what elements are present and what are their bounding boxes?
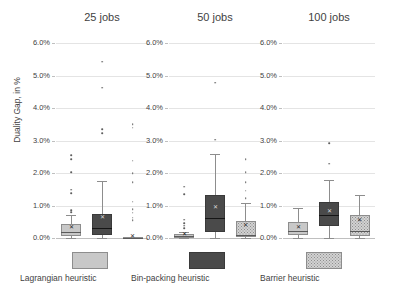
outlier-point — [184, 193, 186, 195]
y-axis-tick-label: 4.0% — [243, 103, 277, 112]
y-axis-tick-label: 5.0% — [16, 71, 50, 80]
outlier-point — [245, 181, 247, 183]
y-axis-tick-mark — [279, 43, 282, 44]
outlier-point — [101, 133, 103, 135]
whisker-cap-lower — [179, 238, 189, 239]
outlier-point — [245, 159, 247, 161]
outlier-point — [71, 159, 73, 161]
y-axis-tick-label: 2.0% — [243, 168, 277, 177]
y-axis-tick-mark — [279, 76, 282, 77]
mean-marker: ✕ — [327, 209, 332, 215]
whisker-cap-lower — [355, 238, 365, 239]
outlier-point — [184, 227, 186, 229]
y-axis-tick-mark — [165, 141, 168, 142]
y-axis-tick-label: 0.0% — [129, 233, 163, 242]
outlier-point — [184, 222, 186, 224]
y-axis-tick-mark — [165, 43, 168, 44]
whisker-cap-lower — [293, 238, 303, 239]
mean-marker: ✕ — [100, 215, 105, 221]
y-axis-tick-label: 6.0% — [16, 38, 50, 47]
outlier-point — [132, 219, 134, 221]
outlier-point — [101, 87, 103, 89]
outlier-point — [184, 186, 186, 188]
duality-gap-boxplot-figure: Duality Gap, in % 25 jobs0.0%1.0%2.0%3.0… — [0, 0, 408, 307]
gridline — [283, 76, 375, 77]
outlier-point — [245, 190, 247, 192]
y-axis-tick-mark — [279, 141, 282, 142]
y-axis-tick-label: 5.0% — [243, 71, 277, 80]
outlier-point — [245, 198, 247, 200]
outlier-point — [71, 154, 73, 156]
y-axis-tick-label: 4.0% — [129, 103, 163, 112]
mean-marker: ✕ — [213, 205, 218, 211]
y-axis-tick-mark — [52, 238, 55, 239]
panel-100-jobs: 100 jobs0.0%1.0%2.0%3.0%4.0%5.0%6.0%✕✕✕ — [283, 43, 375, 238]
panel-title: 25 jobs — [42, 11, 162, 23]
outlier-point — [71, 192, 73, 194]
mean-marker: ✕ — [296, 225, 301, 231]
y-axis-tick-mark — [165, 238, 168, 239]
y-axis-tick-mark — [279, 108, 282, 109]
y-axis-tick-mark — [279, 173, 282, 174]
outlier-point — [71, 171, 73, 173]
y-axis-tick-label: 1.0% — [129, 201, 163, 210]
outlier-point — [184, 225, 186, 227]
y-axis-tick-mark — [165, 76, 168, 77]
panel-title: 100 jobs — [269, 11, 389, 23]
outlier-point — [132, 160, 134, 162]
mean-marker: ✕ — [69, 226, 74, 232]
y-axis-tick-label: 4.0% — [16, 103, 50, 112]
y-axis-tick-label: 3.0% — [129, 136, 163, 145]
whisker-cap-lower — [210, 238, 220, 239]
legend-label: Barrier heuristic — [260, 273, 320, 283]
outlier-point — [132, 127, 134, 129]
whisker-cap-lower — [324, 238, 334, 239]
outlier-point — [71, 211, 73, 213]
whisker-cap-upper — [97, 181, 107, 182]
y-axis-tick-mark — [279, 238, 282, 239]
y-axis-tick-label: 6.0% — [243, 38, 277, 47]
panel-title: 50 jobs — [155, 11, 275, 23]
y-axis-tick-mark — [52, 108, 55, 109]
mean-marker: ✕ — [182, 232, 187, 238]
outlier-point — [328, 142, 330, 144]
y-axis-tick-label: 2.0% — [16, 168, 50, 177]
whisker-cap-upper — [210, 154, 220, 155]
legend-label: Lagrangian heuristic — [20, 273, 97, 283]
legend-swatch — [72, 252, 108, 269]
y-axis-tick-label: 0.0% — [16, 233, 50, 242]
outlier-point — [71, 189, 73, 191]
median-line — [61, 232, 81, 233]
outlier-point — [214, 82, 216, 84]
outlier-point — [328, 163, 330, 165]
y-axis-tick-mark — [279, 206, 282, 207]
whisker-cap-lower — [97, 238, 107, 239]
outlier-point — [132, 181, 134, 183]
whisker-cap-upper — [355, 195, 365, 196]
median-line — [205, 218, 225, 219]
outlier-point — [132, 217, 134, 219]
outlier-point — [101, 129, 103, 131]
gridline — [283, 108, 375, 109]
whisker-cap-upper — [324, 180, 334, 181]
y-axis-tick-label: 3.0% — [243, 136, 277, 145]
outlier-point — [71, 209, 73, 211]
y-axis-tick-label: 2.0% — [129, 168, 163, 177]
y-axis-tick-mark — [52, 141, 55, 142]
median-line — [288, 231, 308, 232]
y-axis-tick-mark — [52, 43, 55, 44]
box-bin-packing-heuristic — [205, 195, 225, 232]
gridline — [283, 43, 375, 44]
y-axis-tick-label: 1.0% — [243, 201, 277, 210]
legend-swatch — [189, 252, 225, 269]
chart-legend: Lagrangian heuristicBin-packing heuristi… — [0, 252, 408, 298]
outlier-point — [132, 212, 134, 214]
y-axis-tick-mark — [165, 108, 168, 109]
y-axis-tick-label: 0.0% — [243, 233, 277, 242]
legend-swatch — [306, 252, 342, 269]
y-axis-tick-label: 1.0% — [16, 201, 50, 210]
whisker-cap-upper — [66, 215, 76, 216]
outlier-point — [214, 139, 216, 141]
y-axis-tick-mark — [165, 173, 168, 174]
median-line — [350, 231, 370, 232]
